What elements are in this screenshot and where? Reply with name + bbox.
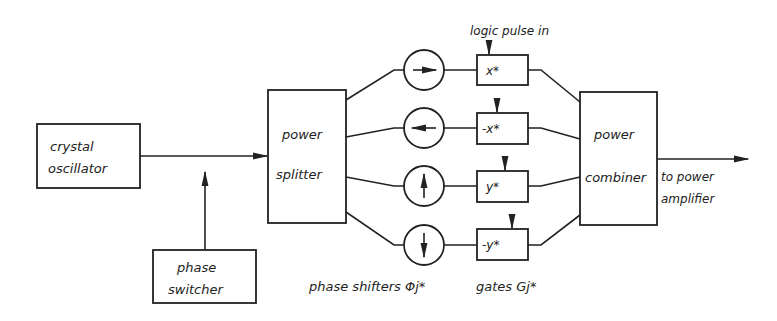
phase-shifter-right [404,50,444,90]
combiner-label-2: combiner [585,170,648,185]
power-splitter-block: power splitter [268,90,346,223]
combiner-label-1: power [593,127,636,142]
gates-label: gates Gj* [476,279,537,294]
gate-neg-x: -x* [477,101,528,144]
phase-shifter-up [404,166,444,206]
phase-shifter-down [404,225,444,265]
phase-switcher-label-2: switcher [168,282,224,297]
output-label-1: to power [661,170,715,184]
phase-switcher-label-1: phase [176,260,216,275]
svg-text:y*: y* [485,180,499,194]
svg-text:-x*: -x* [482,122,499,136]
logic-pulse-label: logic pulse in [470,24,549,38]
gate-y: y* [477,159,528,202]
power-combiner-block: power combiner [580,92,657,225]
phase-switcher-block: phase switcher [153,250,256,303]
svg-text:-y*: -y* [482,238,499,252]
phase-shifters-label: phase shifters Φj* [308,279,426,294]
splitter-label-1: power [281,127,324,142]
svg-text:x*: x* [485,64,499,78]
crystal-oscillator-block: crystal oscillator [37,124,140,188]
output-label-2: amplifier [661,192,715,206]
block-diagram: crystal oscillator phase switcher power … [0,0,777,321]
gate-neg-y: -y* [477,217,528,260]
phase-shifter-left [404,108,444,148]
splitter-label-2: splitter [276,167,323,182]
oscillator-label-2: oscillator [48,161,109,176]
oscillator-label-1: crystal [50,139,94,154]
gate-x: x* [477,42,528,85]
